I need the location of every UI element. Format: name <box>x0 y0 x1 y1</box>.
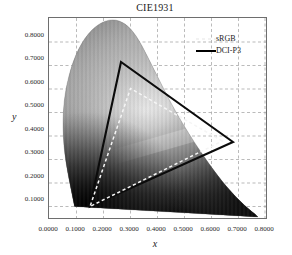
y-tick-label: 0.8000 <box>14 31 44 39</box>
y-axis-title: y <box>12 111 16 122</box>
y-tick-label: 0.6000 <box>14 78 44 86</box>
x-axis-title: x <box>0 238 292 249</box>
x-tick-label: 0.8000 <box>247 225 281 233</box>
legend-label-dci-p3: DCI-P3 <box>216 46 241 56</box>
legend: sRGB DCI-P3 <box>196 33 260 57</box>
chart-title: CIE1931 <box>0 2 292 13</box>
cie1931-chromaticity-figure: CIE1931 0.8000 0.7000 0.6000 0.5000 0.40… <box>0 0 292 255</box>
y-tick-label: 0.5000 <box>14 101 44 109</box>
y-tick-label: 0.1000 <box>14 195 44 203</box>
legend-item-srgb: sRGB <box>196 33 260 45</box>
y-tick-label: 0.3000 <box>14 148 44 156</box>
y-tick-label: 0.2000 <box>14 172 44 180</box>
legend-label-srgb: sRGB <box>216 34 236 44</box>
y-tick-label: 0.4000 <box>14 125 44 133</box>
legend-item-dci-p3: DCI-P3 <box>196 45 260 57</box>
legend-line-srgb-icon <box>196 34 216 44</box>
legend-line-dci-p3-icon <box>196 46 216 56</box>
y-tick-label: 0.7000 <box>14 54 44 62</box>
